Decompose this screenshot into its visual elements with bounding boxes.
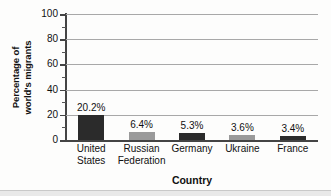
x-axis-category-line: France xyxy=(268,143,318,155)
x-axis-category-line: Federation xyxy=(116,155,166,167)
bar[interactable] xyxy=(229,135,255,140)
bar-value-label: 5.3% xyxy=(181,120,204,131)
x-axis-category-label: UnitedStates xyxy=(66,143,116,166)
bar[interactable] xyxy=(280,136,306,140)
x-axis-category-labels: UnitedStatesRussianFederationGermanyUkra… xyxy=(66,143,318,169)
y-axis-tick xyxy=(60,115,66,117)
axis-baseline xyxy=(66,140,318,142)
y-axis-tick-labels: 020406080100 xyxy=(32,0,58,196)
bar[interactable] xyxy=(179,133,205,140)
y-axis-tick-label: 80 xyxy=(32,34,58,44)
y-axis-tick-label: 100 xyxy=(32,9,58,19)
x-axis-category-label: France xyxy=(268,143,318,155)
y-axis-title-line-2: world's migrants xyxy=(21,10,33,146)
x-axis-category-label: Ukraine xyxy=(217,143,267,155)
y-axis-tick xyxy=(60,90,66,92)
bar-value-label: 6.4% xyxy=(130,119,153,130)
y-axis-tick xyxy=(60,14,66,16)
y-axis-minor-tick xyxy=(62,27,66,28)
bar[interactable] xyxy=(129,132,155,140)
bar-group: 6.4% xyxy=(116,14,166,140)
x-axis-title: Country xyxy=(66,174,318,186)
y-axis-tick xyxy=(60,39,66,41)
y-axis-tick-label: 40 xyxy=(32,85,58,95)
x-axis-category-line: Germany xyxy=(167,143,217,155)
y-axis-title: Percentage of world's migrants xyxy=(10,10,33,146)
y-axis-tick-label: 60 xyxy=(32,59,58,69)
x-axis-category-line: United xyxy=(66,143,116,155)
bar-value-label: 20.2% xyxy=(77,102,105,113)
y-axis-minor-tick xyxy=(62,102,66,103)
y-axis-tick xyxy=(60,64,66,66)
bar-group: 3.4% xyxy=(268,14,318,140)
bar-group: 3.6% xyxy=(217,14,267,140)
bar-group: 20.2% xyxy=(66,14,116,140)
y-axis-minor-tick xyxy=(62,52,66,53)
x-axis-category-line: Russian xyxy=(116,143,166,155)
bar[interactable] xyxy=(78,115,104,140)
bottom-divider xyxy=(0,190,331,196)
x-axis-category-label: Germany xyxy=(167,143,217,155)
y-axis-tick-label: 0 xyxy=(32,135,58,145)
y-axis-minor-tick xyxy=(62,77,66,78)
plot-area: 20.2%6.4%5.3%3.6%3.4% xyxy=(66,14,318,140)
y-axis-minor-tick xyxy=(62,127,66,128)
bar-value-label: 3.6% xyxy=(231,122,254,133)
x-axis-category-line: States xyxy=(66,155,116,167)
y-axis-title-line-1: Percentage of xyxy=(10,10,22,146)
y-axis-tick-label: 20 xyxy=(32,110,58,120)
bar-group: 5.3% xyxy=(167,14,217,140)
x-axis-category-label: RussianFederation xyxy=(116,143,166,166)
bar-chart-figure: Percentage of world's migrants 020406080… xyxy=(0,0,331,196)
y-axis-tick xyxy=(60,140,66,142)
x-axis-category-line: Ukraine xyxy=(217,143,267,155)
bar-value-label: 3.4% xyxy=(281,123,304,134)
